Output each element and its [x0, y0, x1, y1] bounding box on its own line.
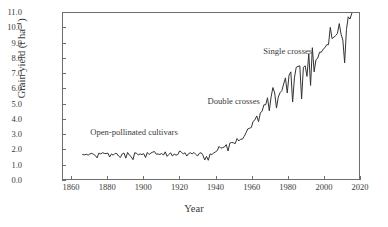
x-tick-mark [71, 176, 72, 180]
x-axis-title: Year [0, 203, 388, 214]
grain-yield-line [83, 13, 352, 160]
x-tick-mark [216, 176, 217, 180]
y-axis-title-close: ) [16, 18, 27, 22]
y-tick-mark [62, 58, 66, 59]
x-tick-label: 1880 [87, 183, 127, 192]
y-tick-mark [62, 134, 66, 135]
x-tick-mark [252, 176, 253, 180]
y-tick-label: 2.0 [0, 145, 22, 154]
y-tick-mark [62, 88, 66, 89]
x-tick-label: 1860 [51, 183, 91, 192]
y-tick-mark [62, 119, 66, 120]
y-tick-mark [62, 180, 66, 181]
x-tick-label: 1940 [196, 183, 236, 192]
annotation-single-crosses: Single crosses [263, 47, 312, 56]
x-tick-label: 1900 [123, 183, 163, 192]
x-tick-mark [360, 176, 361, 180]
y-tick-label: 3.0 [0, 130, 22, 139]
y-tick-label: 0.0 [0, 176, 22, 185]
y-tick-label: 1.0 [0, 161, 22, 170]
y-tick-mark [62, 27, 66, 28]
annotation-double-crosses: Double crosses [208, 97, 260, 106]
x-tick-mark [324, 176, 325, 180]
x-tick-label: 1960 [232, 183, 272, 192]
x-tick-label: 2020 [340, 183, 380, 192]
x-tick-mark [179, 176, 180, 180]
x-tick-label: 2000 [304, 183, 344, 192]
y-tick-mark [62, 73, 66, 74]
x-tick-label: 1920 [159, 183, 199, 192]
y-tick-mark [62, 12, 66, 13]
y-axis-title-text: Grain yield (t ha [16, 29, 27, 98]
y-tick-mark [62, 165, 66, 166]
y-tick-mark [62, 149, 66, 150]
x-tick-mark [107, 176, 108, 180]
x-tick-mark [143, 176, 144, 180]
y-tick-mark [62, 43, 66, 44]
y-axis-title: Grain yield (t ha−1) [15, 0, 28, 123]
annotation-open-pollinated-cultivars: Open-pollinated cultivars [90, 128, 178, 137]
x-tick-mark [288, 176, 289, 180]
x-tick-label: 1980 [268, 183, 308, 192]
figure-container: 0.01.02.03.04.05.06.07.08.09.010.011.0 1… [0, 0, 388, 227]
y-tick-mark [62, 104, 66, 105]
y-axis-title-superscript: −1 [15, 22, 23, 29]
